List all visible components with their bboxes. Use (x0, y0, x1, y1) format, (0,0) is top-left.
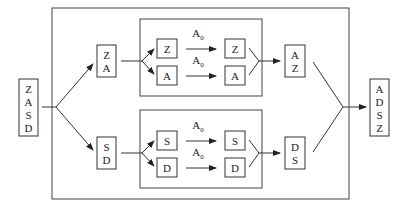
merge-bottom-box: D S (285, 137, 305, 169)
merge-top-letter: A (291, 49, 299, 61)
input-split-arrows (42, 64, 93, 150)
input-letter: A (25, 96, 33, 108)
output-box: A D S Z (370, 79, 389, 136)
lower-op-label-2: A0 (192, 146, 204, 161)
merge-bottom-letter: D (291, 141, 299, 153)
input-letter: D (25, 122, 33, 134)
split-bottom-letter: D (103, 154, 111, 166)
output-letter: S (376, 109, 382, 121)
input-letter: Z (25, 83, 32, 95)
output-letter: A (376, 83, 384, 95)
lower-out-s-label: S (232, 135, 238, 147)
upper-out-a-label: A (231, 70, 239, 82)
output-letter: Z (376, 122, 383, 134)
upper-in-z-label: Z (164, 43, 171, 55)
merge-top-box: A Z (285, 45, 305, 77)
split-top-letter: A (103, 62, 111, 74)
input-box: Z A S D (19, 79, 38, 136)
lower-out-d-label: D (231, 162, 239, 174)
upper-in-a-label: A (163, 70, 171, 82)
split-top-box: Z A (97, 45, 116, 77)
lower-module: S D A0 A0 S D (121, 110, 280, 188)
lower-in-d-label: D (163, 162, 171, 174)
upper-module: Z A A0 A0 Z A (121, 19, 280, 96)
lower-op-label-1: A0 (192, 119, 204, 134)
upper-op-label-1: A0 (192, 27, 204, 42)
diagram-canvas: Z A S D Z A S D Z A A0 A0 Z A (0, 0, 407, 211)
input-letter: S (25, 109, 31, 121)
upper-out-z-label: Z (232, 43, 239, 55)
split-bottom-letter: S (103, 141, 109, 153)
upper-op-label-2: A0 (192, 54, 204, 69)
output-merge-arrows (313, 62, 366, 152)
lower-in-s-label: S (164, 135, 170, 147)
split-top-letter: Z (103, 49, 110, 61)
split-bottom-box: S D (97, 137, 116, 169)
output-letter: D (376, 96, 384, 108)
merge-bottom-letter: S (292, 154, 298, 166)
merge-top-letter: Z (292, 62, 299, 74)
